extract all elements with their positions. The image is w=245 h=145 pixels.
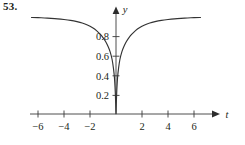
y-tick-label: 0.6	[96, 51, 109, 62]
y-tick-label: 0.4	[96, 71, 110, 82]
y-tick-label: 0.2	[96, 90, 109, 101]
figure-container: 53. −6 −4 −2 2 4	[0, 0, 245, 145]
x-axis-label: t	[226, 109, 230, 120]
x-tick-label: 2	[139, 121, 144, 132]
x-axis-arrow-icon	[212, 111, 220, 118]
x-tick-label: −2	[84, 121, 95, 132]
x-tick-label: −4	[58, 121, 70, 132]
x-axis-group	[30, 111, 220, 118]
x-tick-labels: −6 −4 −2 2 4 6	[32, 121, 196, 132]
y-axis-arrow-icon	[113, 7, 120, 15]
plot-area: −6 −4 −2 2 4 6 0.2 0.4 0.6 0.8 t y	[0, 0, 245, 145]
x-tick-label: 4	[165, 121, 171, 132]
y-tick-labels: 0.2 0.4 0.6 0.8	[96, 31, 110, 101]
y-axis-label: y	[122, 4, 128, 15]
x-tick-label: −6	[32, 121, 43, 132]
x-tick-label: 6	[191, 121, 196, 132]
